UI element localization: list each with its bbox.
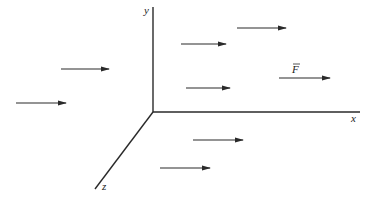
x-axis-label: x	[350, 112, 356, 124]
force-vector-label: F	[291, 63, 299, 75]
coordinate-axes	[95, 7, 360, 189]
diagram-labels: yxzF	[101, 4, 356, 192]
z-axis	[95, 112, 153, 189]
z-axis-label: z	[101, 180, 107, 192]
vector-field-arrows	[16, 28, 330, 168]
y-axis-label: y	[143, 4, 149, 16]
vector-field-diagram: yxzF	[0, 0, 373, 199]
